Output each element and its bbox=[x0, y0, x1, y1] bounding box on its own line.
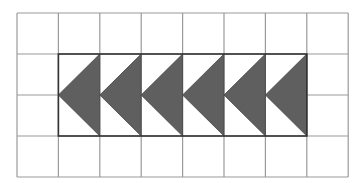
grid-figure bbox=[0, 0, 358, 183]
left-triangle bbox=[183, 54, 224, 136]
left-triangle bbox=[265, 54, 306, 136]
left-triangle bbox=[58, 54, 99, 136]
left-triangle bbox=[141, 54, 182, 136]
left-triangle bbox=[100, 54, 141, 136]
triangles bbox=[58, 54, 306, 136]
left-triangle bbox=[224, 54, 265, 136]
